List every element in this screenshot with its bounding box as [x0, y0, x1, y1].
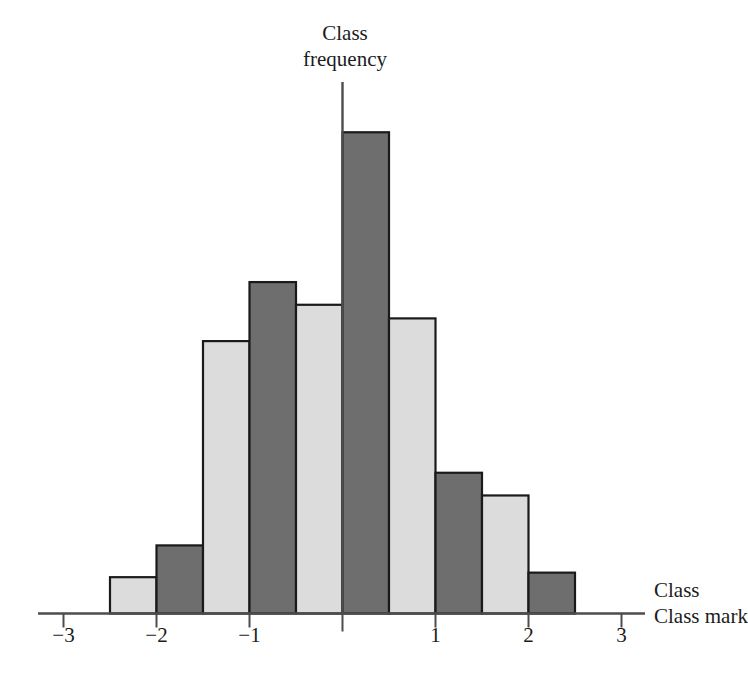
histogram-bar [250, 282, 297, 613]
x-axis-title-line1: Class [654, 578, 700, 602]
histogram-bar [389, 318, 436, 613]
x-axis-title: ClassClass mark [654, 577, 744, 629]
axis-group [38, 82, 645, 632]
x-axis-title-line2: Class mark [654, 604, 748, 628]
histogram-bar [296, 305, 343, 614]
y-axis-title-line1: Class [322, 21, 368, 45]
histogram-bar [529, 573, 576, 614]
x-tick-label: 2 [509, 623, 549, 648]
x-tick-label: −2 [137, 623, 177, 648]
x-tick-label: 3 [602, 623, 642, 648]
y-axis-title: Classfrequency [285, 20, 405, 72]
x-tick-label: 1 [416, 623, 456, 648]
histogram-bar [110, 577, 157, 613]
histogram-bar [157, 545, 204, 613]
histogram-bar [436, 473, 483, 614]
y-axis-title-line2: frequency [303, 47, 387, 71]
histogram-bar [343, 132, 390, 613]
x-tick-label: −3 [44, 623, 84, 648]
histogram-bar [203, 341, 250, 613]
x-tick-label: −1 [230, 623, 270, 648]
histogram-bar [482, 495, 529, 613]
